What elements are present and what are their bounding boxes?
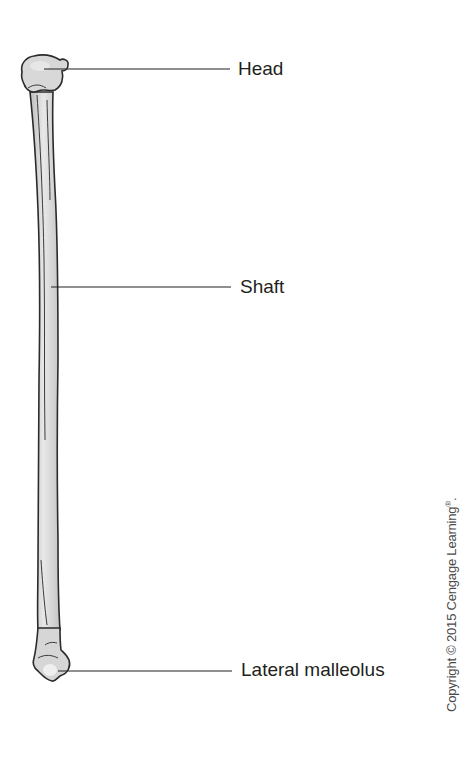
registered-mark: ® (444, 501, 453, 507)
fibula-bone-illustration (0, 0, 469, 761)
fibula-diagram: Head Shaft Lateral malleolus Copyright ©… (0, 0, 469, 761)
copyright-suffix: . (444, 498, 459, 501)
shaft-outline (30, 92, 60, 630)
copyright-text: Copyright © 2015 Cengage Learning (444, 507, 459, 712)
label-head: Head (238, 59, 283, 78)
lateral-malleolus (33, 628, 69, 681)
copyright-notice: Copyright © 2015 Cengage Learning®. (444, 498, 459, 712)
head-of-fibula (22, 55, 69, 92)
label-shaft: Shaft (240, 277, 284, 296)
label-lateral-malleolus: Lateral malleolus (241, 660, 385, 679)
